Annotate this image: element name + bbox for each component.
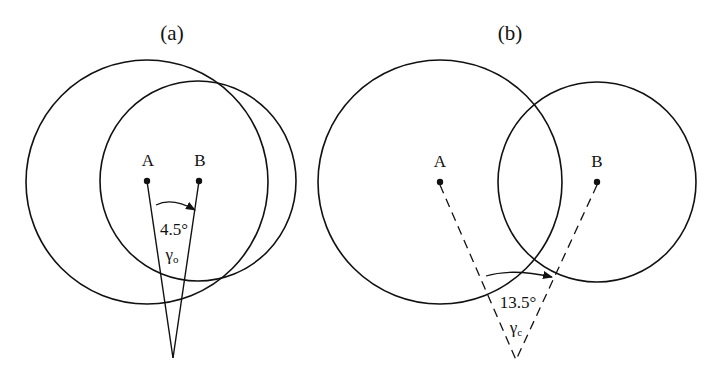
- panel-a-angle-label: 4.5°: [160, 220, 188, 239]
- panel-b-point-a-dot: [437, 179, 443, 185]
- panel-b-angle-label: 13.5°: [500, 293, 537, 312]
- panel-a-title: (a): [160, 21, 183, 45]
- panel-b-gamma-label: γc: [509, 318, 523, 338]
- panel-a-point-a-dot: [144, 178, 150, 184]
- panel-a-line-from-b: [173, 181, 199, 358]
- panel-a-gamma-subscript: o: [173, 253, 179, 265]
- panel-b-point-b-dot: [594, 179, 600, 185]
- panel-a-gamma-label: γo: [164, 245, 179, 265]
- panel-b-title: (b): [498, 21, 523, 45]
- panel-a-point-b-dot: [196, 178, 202, 184]
- panel-a: (a) A B 4.5° γo: [26, 21, 296, 358]
- panel-a-label-b: B: [194, 151, 205, 170]
- panel-a-angle-arc-icon: [156, 202, 195, 210]
- panel-b-label-b: B: [591, 152, 602, 171]
- panel-b-gamma-subscript: c: [517, 326, 522, 338]
- panel-a-label-a: A: [142, 151, 155, 170]
- panel-b-label-a: A: [434, 152, 447, 171]
- panel-b: (b) A B 13.5° γc: [318, 21, 696, 360]
- diagram-canvas: (a) A B 4.5° γo (b) A B 13.5° γc: [0, 0, 713, 380]
